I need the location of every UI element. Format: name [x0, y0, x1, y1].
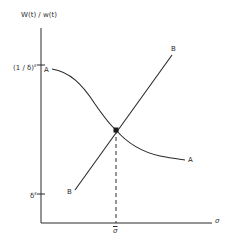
y-tick-label-lower: δε: [30, 191, 37, 200]
line-b-label-start: B: [67, 189, 72, 196]
curve-a-label-start: A: [44, 67, 49, 74]
y-tick-label-upper: (1 / δ)ε: [13, 63, 37, 72]
y-tick-lower-exponent: ε: [34, 190, 37, 196]
x-tick-label-sigma-bar: σ: [113, 228, 117, 235]
y-tick-upper-exponent: ε: [34, 62, 37, 68]
curve-a: [52, 69, 185, 160]
intersection-point: [114, 128, 119, 133]
line-b-label-end: B: [171, 46, 176, 53]
y-tick-upper-base: (1 / δ): [13, 64, 34, 72]
x-axis-title: σ: [215, 218, 219, 225]
line-b: [75, 55, 172, 190]
y-axis-title: W(t) / w(t): [21, 12, 57, 19]
diagram-canvas: [0, 0, 232, 242]
curve-a-label-end: A: [188, 157, 193, 164]
